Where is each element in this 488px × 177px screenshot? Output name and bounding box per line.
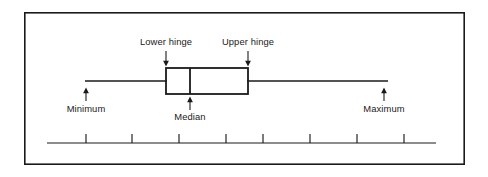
lower-hinge-arrow-head xyxy=(163,61,169,67)
maximum-arrow-head xyxy=(381,88,387,94)
lower-hinge-label: Lower hinge xyxy=(140,36,192,47)
median-arrow-head xyxy=(187,97,193,103)
boxplot-diagram-canvas: Lower hinge Upper hinge Median Minimum M… xyxy=(0,0,488,177)
median-label: Median xyxy=(174,111,205,122)
minimum-label: Minimum xyxy=(67,103,106,114)
boxplot-figure: Lower hinge Upper hinge Median Minimum M… xyxy=(0,0,488,177)
upper-hinge-arrow-head xyxy=(245,61,251,67)
interquartile-box xyxy=(166,68,248,94)
axis-tick-group xyxy=(86,134,404,143)
minimum-arrow-head xyxy=(83,88,89,94)
upper-hinge-label: Upper hinge xyxy=(222,36,274,47)
maximum-label: Maximum xyxy=(363,103,404,114)
